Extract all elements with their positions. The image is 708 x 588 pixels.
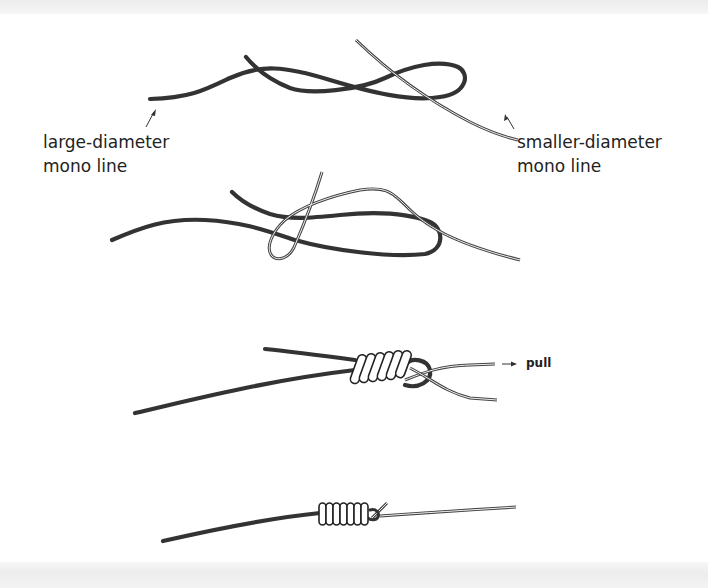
thick-line-step1	[150, 57, 465, 99]
coil-wraps-step3	[349, 349, 412, 384]
thick-line-step3	[135, 370, 355, 413]
pointer-arrow-small-line	[507, 117, 514, 129]
thin-line-step1	[356, 40, 518, 140]
step-4	[163, 503, 516, 541]
label-line-1: smaller-diameter	[517, 130, 662, 154]
knot-illustration	[0, 0, 708, 588]
label-line-2: mono line	[517, 154, 662, 178]
thick-tag-step3	[265, 349, 355, 360]
coil-wraps-step4	[319, 503, 368, 525]
pull-label: pull	[526, 356, 551, 370]
label-line-2: mono line	[43, 154, 169, 178]
arrow-right-icon	[511, 362, 517, 367]
step-3	[135, 349, 517, 413]
thick-line-step4	[163, 513, 320, 541]
label-large-diameter-line: large-diameter mono line	[43, 130, 169, 178]
label-line-1: large-diameter	[43, 130, 169, 154]
knot-diagram: large-diameter mono line smaller-diamete…	[0, 0, 708, 588]
arrow-head-icon	[151, 109, 156, 116]
thick-line-step2	[112, 192, 440, 255]
step-1	[146, 40, 518, 140]
step-2	[112, 172, 520, 260]
label-smaller-diameter-line: smaller-diameter mono line	[517, 130, 662, 178]
